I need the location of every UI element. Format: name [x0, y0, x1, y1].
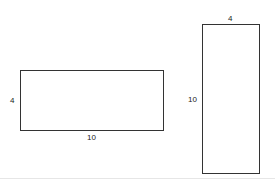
- horizontal-rectangle-height-label: 4: [10, 97, 14, 105]
- vertical-rectangle-width-label: 4: [228, 15, 232, 23]
- vertical-rectangle-height-label: 10: [188, 96, 197, 104]
- bottom-divider: [0, 178, 275, 179]
- horizontal-rectangle: [20, 70, 164, 131]
- horizontal-rectangle-width-label: 10: [87, 134, 96, 142]
- vertical-rectangle: [202, 24, 260, 174]
